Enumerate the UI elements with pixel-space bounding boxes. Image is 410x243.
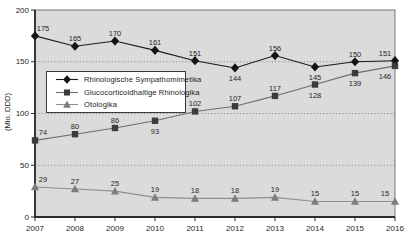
- legend-label: Otologika: [84, 100, 117, 109]
- square-marker-icon: [192, 108, 198, 114]
- diamond-marker-icon: [63, 75, 71, 84]
- data-point-label: 107: [229, 94, 242, 103]
- data-point-label: 151: [189, 49, 202, 58]
- x-tick-label: 2011: [186, 224, 204, 233]
- data-point-label: 80: [71, 122, 79, 131]
- square-marker-icon: [312, 81, 318, 87]
- data-point-label: 175: [37, 24, 50, 33]
- data-point-label: 145: [309, 73, 322, 82]
- legend: Rhinologische Sympathomimetika Glucocort…: [46, 71, 186, 113]
- x-tick-label: 2007: [26, 224, 44, 233]
- data-point-label: 102: [189, 99, 202, 108]
- data-point-label: 15: [311, 189, 319, 198]
- data-point-label: 170: [109, 29, 122, 38]
- square-marker-icon: [32, 137, 38, 143]
- x-tick-label: 2009: [106, 224, 124, 233]
- y-tick-label: 0: [25, 213, 30, 222]
- chart-canvas: 0501001502002007200820092010201120122013…: [0, 0, 410, 243]
- square-marker-icon: [392, 63, 398, 69]
- y-tick-label: 50: [20, 161, 29, 170]
- square-marker-icon: [352, 70, 358, 76]
- x-tick-label: 2008: [66, 224, 84, 233]
- y-tick-label: 150: [16, 57, 30, 66]
- legend-label: Rhinologische Sympathomimetika: [84, 75, 201, 84]
- x-tick-label: 2013: [266, 224, 284, 233]
- data-point-label: 18: [191, 186, 199, 195]
- line-chart-figure: 0501001502002007200820092010201120122013…: [0, 0, 410, 243]
- square-marker-icon: [272, 93, 278, 99]
- data-point-label: 86: [111, 116, 119, 125]
- data-point-label: 144: [229, 74, 242, 83]
- y-tick-label: 200: [16, 6, 30, 15]
- square-marker-icon: [112, 125, 118, 131]
- data-point-label: 18: [231, 186, 239, 195]
- data-point-label: 150: [349, 50, 362, 59]
- data-point-label: 117: [269, 84, 281, 93]
- square-marker-icon: [152, 118, 158, 124]
- data-point-label: 15: [351, 189, 359, 198]
- triangle-marker-icon: [55, 100, 79, 109]
- x-tick-label: 2010: [146, 224, 164, 233]
- legend-item-otologika: Otologika: [55, 99, 181, 110]
- legend-item-glucocorticoid: Glucocorticoidhaltige Rhinologika: [55, 87, 181, 98]
- data-point-label: 165: [69, 34, 82, 43]
- square-marker-icon: [64, 89, 70, 95]
- square-marker-icon: [55, 88, 79, 97]
- data-point-label: 139: [349, 79, 362, 88]
- square-marker-icon: [232, 103, 238, 109]
- data-point-label: 19: [151, 185, 159, 194]
- x-tick-label: 2012: [226, 224, 244, 233]
- data-point-label: 151: [379, 49, 392, 58]
- square-marker-icon: [72, 131, 78, 137]
- data-point-label: 15: [381, 189, 389, 198]
- x-tick-label: 2015: [346, 224, 364, 233]
- data-point-label: 146: [379, 72, 392, 81]
- data-point-label: 27: [71, 177, 79, 186]
- legend-label: Glucocorticoidhaltige Rhinologika: [84, 88, 200, 97]
- diamond-marker-icon: [55, 75, 79, 84]
- data-point-label: 29: [39, 175, 47, 184]
- y-axis-title: (Mio. DDD): [3, 93, 12, 131]
- data-point-label: 161: [149, 38, 162, 47]
- data-point-label: 128: [309, 91, 322, 100]
- data-point-label: 93: [151, 127, 159, 136]
- y-tick-label: 100: [16, 109, 30, 118]
- x-tick-label: 2016: [386, 224, 404, 233]
- x-tick-label: 2014: [306, 224, 324, 233]
- data-point-label: 19: [271, 185, 279, 194]
- legend-item-sympathomimetika: Rhinologische Sympathomimetika: [55, 74, 181, 85]
- data-point-label: 74: [39, 128, 47, 137]
- data-point-label: 156: [269, 44, 282, 53]
- data-point-label: 25: [111, 179, 119, 188]
